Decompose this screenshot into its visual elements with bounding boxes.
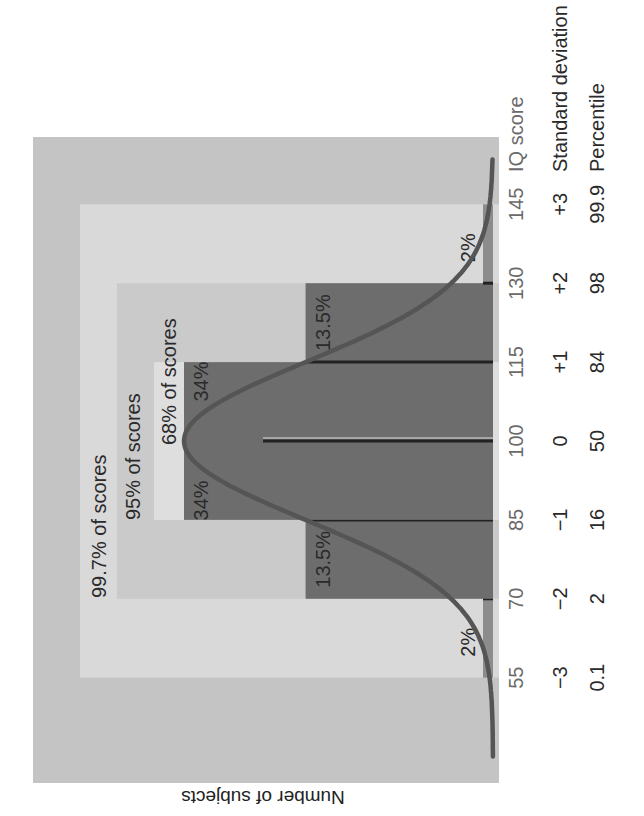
tick-label: −2 <box>549 587 571 610</box>
tick-label: 84 <box>586 351 608 373</box>
band-label: 95% of scores <box>122 393 144 520</box>
band-label: 68% of scores <box>158 318 180 445</box>
tick-label: 98 <box>586 272 608 294</box>
segment-bar <box>184 441 493 520</box>
tick-label: 70 <box>505 588 527 610</box>
segment-label: 13.5% <box>312 531 334 588</box>
y-axis-label: Number of subjects <box>181 787 345 808</box>
tick-label: 145 <box>505 188 527 221</box>
tick-label: 100 <box>505 424 527 457</box>
tick-label: −1 <box>549 508 571 531</box>
tick-label: 85 <box>505 509 527 531</box>
tick-label: +2 <box>549 272 571 295</box>
tick-label: 115 <box>505 346 527 378</box>
segment-bar <box>184 362 493 441</box>
plot-area: 2%13.5%34%34%13.5%2%99.7% of scores95% o… <box>33 137 499 783</box>
tick-label: 16 <box>586 509 608 531</box>
segment-label: 34% <box>190 361 212 401</box>
band-label: 99.7% of scores <box>88 455 110 598</box>
tick-label: 0.1 <box>586 664 608 692</box>
row-title: Percentile <box>586 83 608 172</box>
iq-normal-distribution-chart: 2%13.5%34%34%13.5%2%99.7% of scores95% o… <box>0 0 644 816</box>
tick-label: 55 <box>505 667 527 689</box>
tick-label: 2 <box>586 593 608 604</box>
tick-label: 130 <box>505 267 527 300</box>
tick-label: +1 <box>549 351 571 374</box>
row-title: IQ score <box>505 96 527 172</box>
segment-label: 34% <box>190 480 212 520</box>
tick-label: −3 <box>549 666 571 689</box>
segment-label: 13.5% <box>312 294 334 351</box>
tick-label: 50 <box>586 430 608 452</box>
tick-label: 99.9 <box>586 185 608 224</box>
tick-label: +3 <box>549 193 571 216</box>
row-title: Standard deviation <box>549 5 571 172</box>
tick-label: 0 <box>549 435 571 446</box>
axis-labels: 557085100115130145IQ score−3−2−10+1+2+3S… <box>505 5 608 691</box>
